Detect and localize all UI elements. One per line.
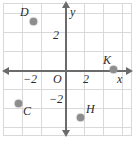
x-axis-label: x	[117, 73, 122, 85]
y-tick-label-2: 2	[53, 29, 59, 41]
plot-point-label-C: C	[23, 105, 31, 117]
plot-point-label-K: K	[103, 54, 111, 66]
grid-line-horizontal	[3, 89, 132, 90]
grid-line-horizontal	[3, 127, 132, 128]
plot-point-label-D: D	[20, 6, 29, 18]
origin-label: O	[53, 73, 62, 85]
y-tick-label-minus-2: −2	[49, 93, 63, 105]
plot-point-label-H: H	[86, 103, 95, 115]
coordinate-plane-figure: y x O 2 −2 −2 2 D K C H	[0, 0, 137, 145]
grid-line-horizontal	[3, 51, 132, 52]
x-axis-arrow-right-icon	[126, 67, 133, 75]
y-axis-arrow-up-icon	[62, 1, 70, 8]
plot-point-H	[77, 114, 84, 121]
x-tick-label-minus-2: −2	[23, 73, 37, 85]
y-axis	[65, 5, 67, 133]
x-axis-arrow-left-icon	[2, 67, 9, 75]
plot-point-C	[15, 100, 22, 107]
plot-point-D	[30, 18, 37, 25]
y-axis-arrow-down-icon	[62, 130, 70, 137]
plot-point-K	[110, 66, 117, 73]
x-tick-label-2: 2	[83, 73, 89, 85]
grid-line-horizontal	[3, 32, 132, 33]
y-axis-label: y	[70, 6, 75, 18]
